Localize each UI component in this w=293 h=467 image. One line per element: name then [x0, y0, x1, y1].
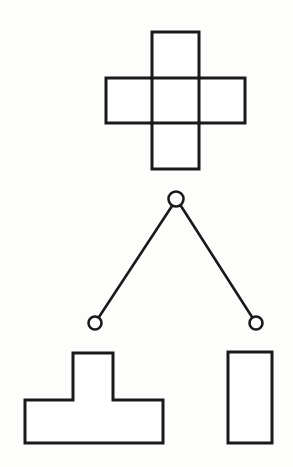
- tree-leaf-node-right: [250, 317, 263, 330]
- tree-root-node: [169, 192, 184, 207]
- tall-rectangle-outline: [228, 352, 272, 443]
- diagram-canvas: [0, 0, 293, 467]
- tree-leaf-node-left: [89, 317, 102, 330]
- figure-page: Cube net and decision-tree figure: [0, 0, 293, 467]
